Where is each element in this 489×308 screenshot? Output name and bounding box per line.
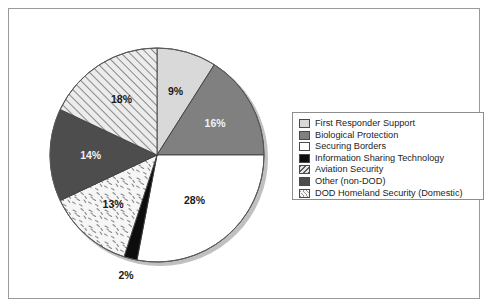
legend-item-label: Other (non-DOD): [315, 176, 385, 187]
chart-legend: First Responder Support Biological Prote…: [292, 112, 484, 200]
legend-item-label: Securing Borders: [315, 141, 386, 152]
pie-slice[interactable]: [137, 155, 264, 262]
pie-slice-value-label: 16%: [205, 117, 227, 129]
legend-item[interactable]: Information Sharing Technology: [299, 153, 478, 164]
legend-swatch-icon: [299, 165, 310, 174]
legend-item-label: DOD Homeland Security (Domestic): [315, 188, 463, 199]
pie-slice-value-label: 9%: [168, 85, 184, 97]
pie-slice-value-label: 2%: [119, 269, 135, 281]
pie-slice-value-label: 14%: [80, 149, 102, 161]
legend-item[interactable]: Aviation Security: [299, 164, 478, 175]
pie-slice-value-label: 18%: [111, 93, 133, 105]
legend-item-label: Aviation Security: [315, 164, 383, 175]
legend-item[interactable]: DOD Homeland Security (Domestic): [299, 188, 478, 199]
pie-slice-value-label: 28%: [184, 194, 206, 206]
pie-slice-value-label: 13%: [103, 198, 125, 210]
legend-swatch-icon: [299, 189, 310, 198]
legend-item[interactable]: Biological Protection: [299, 130, 478, 141]
legend-swatch-icon: [299, 142, 310, 151]
legend-item-label: First Responder Support: [315, 118, 415, 129]
pie-chart: 9%16%28%2%13%14%18%: [39, 31, 279, 281]
legend-item-label: Biological Protection: [315, 130, 398, 141]
legend-item[interactable]: Other (non-DOD): [299, 176, 478, 187]
legend-swatch-icon: [299, 177, 310, 186]
legend-swatch-icon: [299, 154, 310, 163]
chart-figure: 9%16%28%2%13%14%18% First Responder Supp…: [0, 0, 489, 308]
pie-chart-svg: 9%16%28%2%13%14%18%: [39, 31, 279, 281]
legend-item-label: Information Sharing Technology: [315, 153, 444, 164]
legend-item[interactable]: Securing Borders: [299, 141, 478, 152]
figure-frame: 9%16%28%2%13%14%18% First Responder Supp…: [8, 8, 480, 299]
legend-swatch-icon: [299, 119, 310, 128]
legend-swatch-icon: [299, 131, 310, 140]
legend-item[interactable]: First Responder Support: [299, 118, 478, 129]
